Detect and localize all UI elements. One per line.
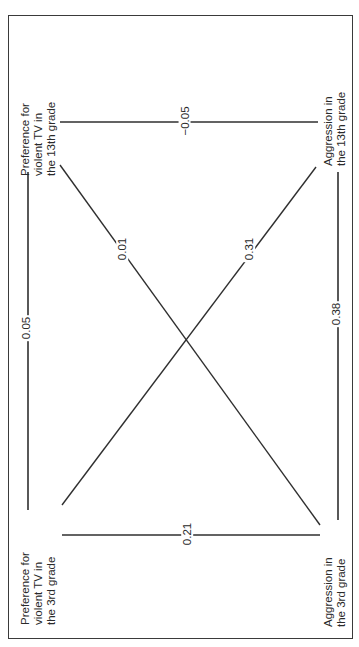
- node-line: the 13th grade: [335, 92, 348, 166]
- node-aggression-3rd-grade: Aggression in the 3rd grade: [322, 557, 348, 627]
- node-line: the 3rd grade: [335, 557, 348, 627]
- node-line: the 13th grade: [45, 102, 58, 176]
- node-line: violent TV in: [32, 552, 45, 625]
- edge-label-pref3-aggr3: 0.21: [181, 521, 193, 547]
- node-line: Aggression in: [322, 557, 335, 627]
- edge-lines: [0, 0, 359, 647]
- node-line: violent TV in: [32, 102, 45, 176]
- edge-label-pref3-aggr13: 0.31: [243, 236, 255, 262]
- node-line: Preference for: [19, 102, 32, 176]
- node-line: Preference for: [19, 552, 32, 625]
- node-line: the 3rd grade: [45, 552, 58, 625]
- edge-label-pref13-aggr3: 0.01: [116, 236, 128, 262]
- node-aggression-13th-grade: Aggression in the 13th grade: [322, 92, 348, 166]
- edge-label-pref3-pref13: 0.05: [20, 315, 32, 341]
- node-pref-violent-tv-13th-grade: Preference for violent TV in the 13th gr…: [19, 102, 58, 176]
- node-line: Aggression in: [322, 92, 335, 166]
- edge-label-aggr3-aggr13: 0.38: [330, 301, 342, 327]
- edge-line-pref13-aggr3: [60, 165, 320, 525]
- node-pref-violent-tv-3rd-grade: Preference for violent TV in the 3rd gra…: [19, 552, 58, 625]
- edge-line-pref3-aggr13: [62, 167, 316, 505]
- edge-label-pref13-aggr13: −0.05: [179, 104, 191, 137]
